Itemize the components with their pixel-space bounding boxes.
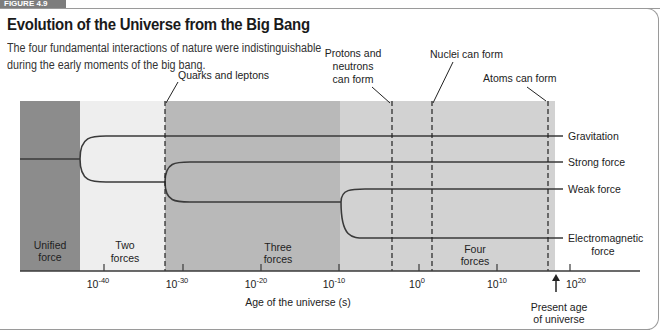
era-band-three-forces <box>165 101 340 271</box>
force-label-strong: Strong force <box>568 156 625 168</box>
era-label-two-1: Two <box>115 239 134 251</box>
era-label-four-1: Four <box>464 243 486 255</box>
event-label-atoms: Atoms can form <box>483 72 557 84</box>
force-label-weak: Weak force <box>568 183 621 195</box>
axis-tick-labels: 10-40 10-30 10-20 10-10 100 1010 1020 <box>87 276 586 290</box>
era-label-three-2: forces <box>264 253 293 265</box>
svg-text:1020: 1020 <box>566 276 586 290</box>
era-label-four-2: forces <box>461 255 490 267</box>
era-band-four-forces <box>340 101 555 271</box>
event-label-quarks-leptons: Quarks and leptons <box>178 69 269 81</box>
event-label-nuclei: Nuclei can form <box>430 48 503 60</box>
force-label-gravitation: Gravitation <box>568 130 619 142</box>
force-label-electromagnetic-2: force <box>591 245 615 257</box>
event-label-protons-1: Protons and <box>325 47 382 59</box>
svg-text:100: 100 <box>409 276 425 290</box>
big-bang-diagram: Quarks and leptons Protons and neutrons … <box>0 0 665 336</box>
era-label-three-1: Three <box>264 241 292 253</box>
force-label-electromagnetic-1: Electromagnetic <box>568 232 643 244</box>
present-age-arrow-icon <box>552 274 560 292</box>
event-label-protons-2: neutrons <box>333 60 374 72</box>
era-label-unified-1: Unified <box>34 239 67 251</box>
event-label-protons-3: can form <box>333 73 374 85</box>
svg-text:10-10: 10-10 <box>323 276 346 290</box>
svg-text:10-40: 10-40 <box>87 276 110 290</box>
present-age-label-1: Present age <box>531 301 588 313</box>
present-age-label-2: of universe <box>533 313 585 325</box>
era-label-two-2: forces <box>111 252 140 264</box>
svg-text:10-20: 10-20 <box>245 276 268 290</box>
era-label-unified-2: force <box>38 251 62 263</box>
axis-title: Age of the universe (s) <box>245 296 351 308</box>
svg-text:10-30: 10-30 <box>166 276 189 290</box>
svg-text:1010: 1010 <box>487 276 507 290</box>
